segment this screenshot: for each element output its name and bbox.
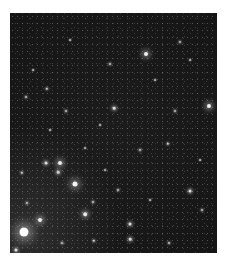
star [58,161,62,165]
star [189,190,192,193]
star [99,124,101,126]
star [129,223,132,226]
star [129,238,132,241]
star [65,110,67,112]
star [199,159,201,161]
star [57,171,60,174]
star [117,189,119,191]
star [49,129,51,131]
star [32,69,34,71]
star [20,228,29,237]
star [45,162,48,165]
star [38,218,42,222]
star [149,199,151,201]
star [61,242,63,244]
background-noise [10,13,217,253]
star [201,209,203,211]
star [144,52,148,56]
star [168,242,170,244]
star [25,96,27,98]
star [207,104,211,108]
star-field-image [10,13,217,253]
star [104,169,106,171]
star [113,107,116,110]
star [139,149,141,151]
star [15,249,18,252]
star [83,212,87,216]
star [154,79,156,81]
star [92,201,94,203]
star [84,147,86,149]
star [109,63,111,65]
star [73,182,78,187]
star [174,110,176,112]
star [69,39,71,41]
star [189,59,191,61]
